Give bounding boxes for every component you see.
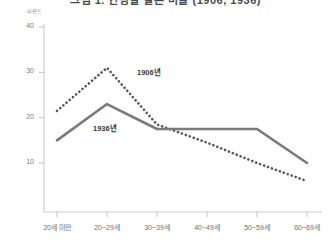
x-tick-label: 20~29세 [94,222,120,232]
y-tick-label: 30 [14,67,34,74]
x-tick-label: 60~69세 [294,222,320,232]
x-tick-label: 30~39세 [144,222,170,232]
series-label-1936: 1936년 [93,122,117,133]
y-tick-label: 40 [14,22,34,29]
y-tick-marks [39,27,44,163]
plot-area [0,0,331,246]
series-label-1906: 1906년 [137,66,161,77]
x-tick-marks [57,212,307,217]
y-tick-label: 10 [14,158,34,165]
x-tick-label: 50~59세 [244,222,270,232]
x-tick-label: 20세 미만 [43,222,71,232]
y-tick-label: 20 [14,113,34,120]
chart-container: 그림 1. 연령별 결혼 비율 (1906, 1936) 퍼센트 4030201… [0,0,331,246]
x-tick-label: 40~49세 [194,222,220,232]
